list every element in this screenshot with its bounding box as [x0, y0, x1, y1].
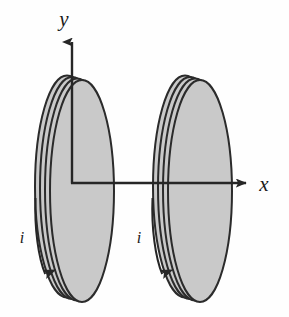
left-coil	[35, 76, 114, 303]
right-coil-face	[168, 80, 232, 302]
right-coil	[153, 76, 232, 303]
x-axis-label: x	[258, 172, 269, 196]
y-axis-label: y	[57, 7, 69, 31]
right-current-label: i	[137, 229, 141, 246]
left-current-label: i	[20, 229, 24, 246]
coil-diagram-svg: y x i i	[0, 0, 289, 317]
left-coil-face	[50, 80, 114, 302]
physics-figure: y x i i	[0, 0, 289, 317]
